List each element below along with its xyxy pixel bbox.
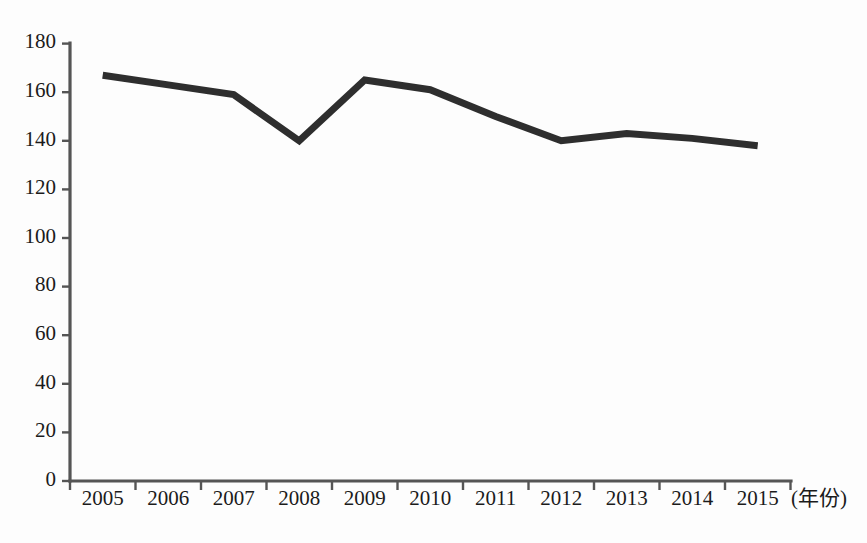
x-tick-label: 2008: [278, 486, 320, 510]
x-tick-label: 2010: [409, 486, 451, 510]
chart-canvas: 0 20 40 60 80 100 120 140 160 180: [0, 0, 867, 543]
x-tick-label: 2007: [213, 486, 255, 510]
y-tick-label: 0: [46, 467, 57, 491]
line-chart: 0 20 40 60 80 100 120 140 160 180: [0, 0, 867, 543]
x-tick-label: 2005: [82, 486, 124, 510]
y-tick-label: 80: [35, 272, 56, 296]
x-tick-label: 2013: [606, 486, 648, 510]
x-axis-unit-label: (年份): [791, 486, 847, 510]
x-tick-label: 2006: [147, 486, 189, 510]
y-tick-label: 20: [35, 418, 56, 442]
x-tick-label: 2014: [671, 486, 714, 510]
x-tick-label: 2012: [540, 486, 582, 510]
x-tick-labels: 2005 2006 2007 2008 2009 2010 2011 2012 …: [82, 486, 779, 510]
y-tick-label: 60: [35, 321, 56, 345]
y-tick-label: 120: [25, 175, 57, 199]
y-tick-label: 140: [25, 127, 57, 151]
x-tick-label: 2009: [344, 486, 386, 510]
x-tick-label: 2015: [737, 486, 779, 510]
x-tick-label: 2011: [475, 486, 516, 510]
y-tick-label: 40: [35, 370, 56, 394]
y-tick-label: 160: [25, 78, 57, 102]
y-tick-label: 180: [25, 29, 57, 53]
y-tick-label: 100: [25, 224, 57, 248]
